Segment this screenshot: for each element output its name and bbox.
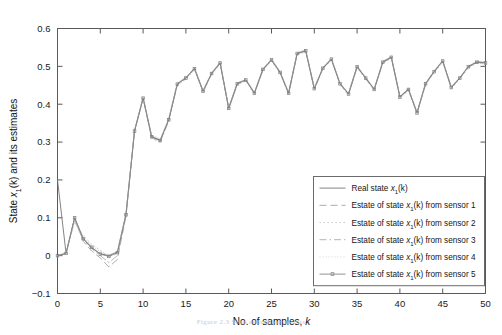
y-tick-label: 0 <box>45 250 50 261</box>
y-tick-label: 0.2 <box>37 174 50 185</box>
x-tick-label: 20 <box>223 298 234 309</box>
x-tick-label: 0 <box>55 298 60 309</box>
x-tick-label: 35 <box>352 298 363 309</box>
x-tick-label: 10 <box>138 298 149 309</box>
y-tick-label: 0.3 <box>37 136 50 147</box>
line-chart: −0.100.10.20.30.40.50.6 0510152025303540… <box>0 0 502 335</box>
figure-container: −0.100.10.20.30.40.50.6 0510152025303540… <box>0 0 502 335</box>
x-tick-label: 30 <box>309 298 320 309</box>
x-tick-label: 15 <box>181 298 192 309</box>
y-axis-label: State x1(k) and its estimates <box>8 99 22 224</box>
figure-caption: Figure 2.3 Scan estimation results <box>0 318 502 335</box>
x-tick-label: 5 <box>98 298 103 309</box>
x-tick-label: 40 <box>395 298 406 309</box>
y-tick-label: 0.6 <box>37 23 50 34</box>
axis-labels: No. of samples, kState x1(k) and its est… <box>8 99 311 327</box>
y-tick-label: 0.1 <box>37 212 50 223</box>
x-tick-label: 45 <box>437 298 448 309</box>
y-tick-label: 0.5 <box>37 61 50 72</box>
x-tick-label: 50 <box>480 298 491 309</box>
chart-legend: Real state x1(k)Estate of state x1(k) fr… <box>314 177 485 286</box>
y-tick-label: −0.1 <box>32 288 51 299</box>
x-tick-label: 25 <box>266 298 277 309</box>
y-tick-label: 0.4 <box>37 99 50 110</box>
